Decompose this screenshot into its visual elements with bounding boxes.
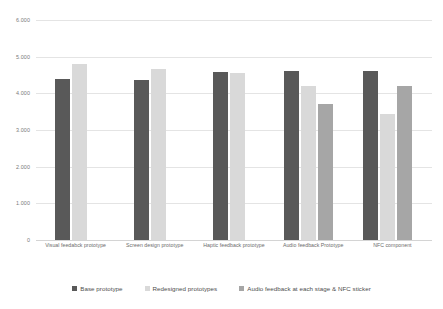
bar[interactable] <box>55 79 70 240</box>
x-axis-category-label: Audio feedback Prototype <box>274 242 353 248</box>
bar[interactable] <box>397 86 412 240</box>
y-axis-tick-label: 4.000 <box>16 90 30 96</box>
bar-group <box>36 20 115 240</box>
x-axis-category-label: Haptic feedback prototype <box>194 242 273 248</box>
bar[interactable] <box>72 64 87 240</box>
bar[interactable] <box>380 114 395 240</box>
legend-label: Base prototype <box>80 285 122 292</box>
bar-group <box>353 20 432 240</box>
legend-item[interactable]: Redesigned prototypes <box>145 285 218 292</box>
legend-label: Redesigned prototypes <box>153 285 218 292</box>
legend-label: Audio feedback at each stage & NFC stick… <box>247 285 371 292</box>
x-axis-category-label: Visual feedabck prototype <box>36 242 115 248</box>
y-axis-tick-label: 6.000 <box>16 17 30 23</box>
bar-group <box>115 20 194 240</box>
legend-swatch-icon <box>239 286 244 291</box>
y-axis-tick-label: 5.000 <box>16 54 30 60</box>
y-axis-tick-label: 3.000 <box>16 127 30 133</box>
bar-groups <box>36 20 432 240</box>
y-axis-tick-label: 1.000 <box>16 200 30 206</box>
bar[interactable] <box>318 104 333 240</box>
legend-swatch-icon <box>145 286 150 291</box>
chart-legend: Base prototypeRedesigned prototypesAudio… <box>0 281 443 295</box>
bar[interactable] <box>301 86 316 240</box>
x-axis-category-label: NFC component <box>353 242 432 248</box>
x-axis: Visual feedabck prototypeScreen design p… <box>36 242 432 256</box>
bar-chart: 6.0005.0004.0003.0002.0001.0000 Visual f… <box>0 0 443 309</box>
y-axis: 6.0005.0004.0003.0002.0001.0000 <box>0 20 34 240</box>
bar[interactable] <box>213 72 228 240</box>
y-axis-tick-label: 2.000 <box>16 164 30 170</box>
bar[interactable] <box>363 71 378 240</box>
x-axis-category-label: Screen design prototype <box>115 242 194 248</box>
gridline <box>36 240 432 241</box>
legend-item[interactable]: Audio feedback at each stage & NFC stick… <box>239 285 371 292</box>
legend-swatch-icon <box>72 286 77 291</box>
y-axis-tick-label: 0 <box>27 237 30 243</box>
legend-item[interactable]: Base prototype <box>72 285 122 292</box>
bar-group <box>194 20 273 240</box>
bar[interactable] <box>284 71 299 240</box>
bar-group <box>274 20 353 240</box>
bar[interactable] <box>151 69 166 240</box>
plot-area <box>36 20 432 240</box>
bar[interactable] <box>134 80 149 240</box>
bar[interactable] <box>230 73 245 240</box>
